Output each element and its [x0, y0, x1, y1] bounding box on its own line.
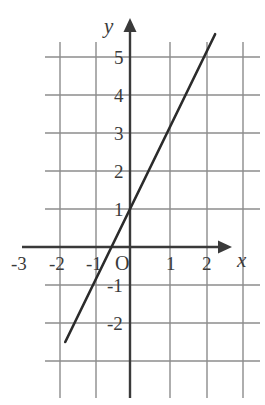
y-tick-label-pos5: 5	[114, 48, 124, 67]
y-tick-label-pos4: 4	[114, 86, 124, 105]
y-tick-label-pos2: 2	[114, 162, 124, 181]
cartesian-line-graph: -3 -2 -1 1 2 O 5 4 3 2 1 -1 -2 y x	[0, 0, 265, 405]
x-tick-label-neg3: -3	[11, 254, 27, 273]
x-tick-label-pos1: 1	[166, 254, 176, 273]
x-tick-label-neg2: -2	[49, 254, 65, 273]
y-tick-label-neg2: -2	[107, 314, 123, 333]
x-axis-arrowhead	[218, 241, 232, 254]
y-axis-name: y	[104, 16, 113, 37]
x-tick-label-neg1: -1	[86, 254, 102, 273]
y-tick-label-neg1: -1	[107, 276, 123, 295]
plotted-line-series	[65, 34, 215, 342]
y-tick-label-pos1: 1	[114, 200, 124, 219]
y-axis-arrowhead	[124, 18, 137, 32]
y-tick-label-pos3: 3	[114, 124, 124, 143]
x-tick-label-pos2: 2	[202, 254, 212, 273]
graph-canvas	[0, 0, 265, 405]
origin-label: O	[115, 253, 129, 273]
x-axis-name: x	[237, 250, 246, 271]
line-y-equals-2x-plus-1	[65, 34, 215, 342]
